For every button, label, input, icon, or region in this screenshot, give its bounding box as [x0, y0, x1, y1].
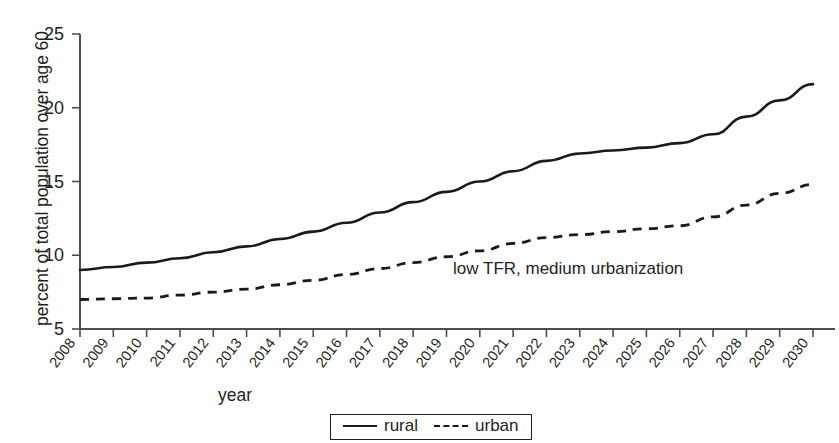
x-tick-label: 2018 — [379, 335, 411, 370]
y-axis-ticks: 510152025 — [44, 24, 80, 339]
legend-item-urban: urban — [434, 416, 518, 436]
series-line-rural — [80, 84, 813, 270]
x-tick-label: 2015 — [279, 335, 311, 370]
legend-label-urban: urban — [475, 416, 518, 436]
y-tick-label: 10 — [44, 245, 64, 265]
x-tick-label: 2030 — [779, 335, 811, 370]
legend-label-rural: rural — [384, 416, 418, 436]
x-tick-label: 2014 — [246, 335, 278, 370]
x-tick-label: 2025 — [612, 335, 644, 370]
dashed-line-icon — [434, 425, 468, 427]
legend-item-rural: rural — [343, 416, 418, 436]
x-tick-label: 2010 — [113, 335, 145, 370]
axis-lines — [80, 34, 835, 329]
x-tick-label: 2022 — [512, 335, 544, 370]
chart-legend: rural urban — [330, 414, 532, 440]
x-tick-label: 2013 — [212, 335, 244, 370]
x-tick-label: 2028 — [712, 335, 744, 370]
x-tick-label: 2021 — [479, 335, 511, 370]
x-axis-ticks: 2008200920102011201220132014201520162017… — [46, 329, 813, 370]
x-tick-label: 2020 — [446, 335, 478, 370]
x-tick-label: 2012 — [179, 335, 211, 370]
x-tick-label: 2026 — [646, 335, 678, 370]
x-tick-label: 2011 — [147, 335, 179, 369]
solid-line-icon — [343, 425, 377, 427]
series-line-urban — [80, 184, 813, 299]
chart-figure: percent of total population over age 60 … — [0, 0, 839, 443]
x-tick-label: 2019 — [412, 335, 444, 370]
y-tick-label: 20 — [44, 98, 64, 118]
x-tick-label: 2016 — [312, 335, 344, 370]
y-tick-label: 25 — [44, 24, 64, 44]
x-tick-label: 2023 — [546, 335, 578, 370]
y-tick-label: 5 — [54, 319, 64, 339]
x-tick-label: 2009 — [79, 335, 111, 370]
x-tick-label: 2024 — [579, 335, 611, 370]
line-chart-plot: 510152025 200820092010201120122013201420… — [0, 0, 839, 443]
x-tick-label: 2027 — [679, 335, 711, 370]
y-tick-label: 15 — [44, 172, 64, 192]
x-tick-label: 2029 — [746, 335, 778, 370]
x-tick-label: 2008 — [46, 335, 78, 370]
x-tick-label: 2017 — [346, 335, 378, 370]
